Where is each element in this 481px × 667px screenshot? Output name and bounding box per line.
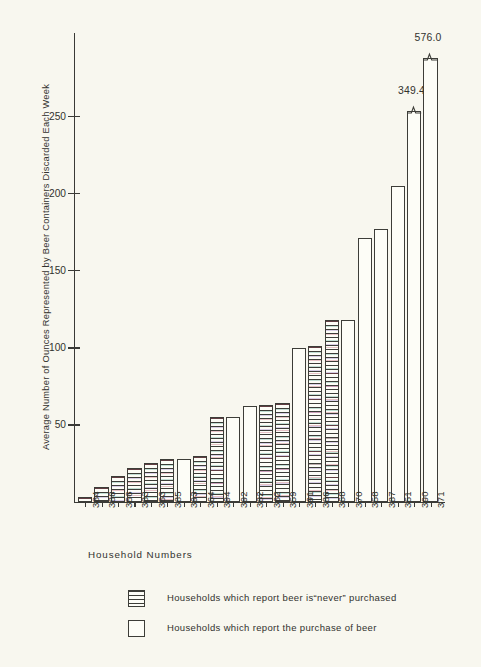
legend-swatch-hatched bbox=[128, 590, 145, 607]
bar-351[interactable] bbox=[391, 186, 405, 502]
y-axis-tick bbox=[68, 270, 80, 271]
x-axis-tick bbox=[414, 502, 415, 507]
y-axis-tick-label: 150 bbox=[26, 265, 66, 276]
y-axis-tick-label: 100 bbox=[26, 342, 66, 353]
y-axis-tick-label: 50 bbox=[26, 419, 66, 430]
y-axis-tick bbox=[68, 347, 80, 348]
x-axis-tick bbox=[266, 502, 267, 507]
x-axis-tick-label-364: 364 bbox=[205, 474, 216, 508]
x-axis-tick bbox=[250, 502, 251, 507]
x-axis-tick-label-382: 382 bbox=[254, 474, 265, 508]
bar-387[interactable] bbox=[374, 229, 388, 502]
x-axis-tick-label-351: 351 bbox=[402, 474, 413, 508]
x-axis-title: Household Numbers bbox=[88, 549, 193, 560]
x-axis-tick-label-358: 358 bbox=[369, 474, 380, 508]
x-axis-tick-label-385: 385 bbox=[172, 474, 183, 508]
x-axis-tick bbox=[315, 502, 316, 507]
x-axis-tick-label-384: 384 bbox=[90, 474, 101, 508]
x-axis-tick-label-371: 371 bbox=[435, 474, 446, 508]
x-axis-tick bbox=[299, 502, 300, 507]
y-axis-line bbox=[74, 33, 75, 503]
y-axis-tick bbox=[68, 193, 80, 194]
x-axis-tick-label-394: 394 bbox=[221, 474, 232, 508]
x-axis-tick bbox=[217, 502, 218, 507]
legend-label-purchase: Households which report the purchase of … bbox=[167, 622, 377, 633]
x-axis-tick-label-383: 383 bbox=[139, 474, 150, 508]
y-axis-tick bbox=[68, 424, 80, 425]
bar-371[interactable] bbox=[423, 58, 437, 502]
x-axis-tick bbox=[283, 502, 284, 507]
chart-legend: Households which report beer is“never” p… bbox=[128, 588, 468, 648]
x-axis-tick bbox=[365, 502, 366, 507]
x-axis-tick bbox=[348, 502, 349, 507]
x-axis-tick bbox=[233, 502, 234, 507]
bar-390[interactable] bbox=[407, 111, 421, 502]
y-axis-tick bbox=[68, 116, 80, 117]
x-axis-tick bbox=[151, 502, 152, 507]
y-axis-tick-label: 200 bbox=[26, 188, 66, 199]
legend-item-never[interactable]: Households which report beer is“never” p… bbox=[128, 588, 468, 618]
x-axis-tick bbox=[102, 502, 103, 507]
value-label-390: 349.4 bbox=[398, 85, 425, 96]
x-axis-tick-label-368: 368 bbox=[336, 474, 347, 508]
x-axis-tick bbox=[184, 502, 185, 507]
x-axis-tick bbox=[85, 502, 86, 507]
x-axis-tick bbox=[134, 502, 135, 507]
x-axis-tick-label-362: 362 bbox=[271, 474, 282, 508]
x-axis-tick-label-356: 356 bbox=[123, 474, 134, 508]
x-axis-tick bbox=[431, 502, 432, 507]
x-axis-tick-label-391: 391 bbox=[304, 474, 315, 508]
x-axis-tick-label-392: 392 bbox=[238, 474, 249, 508]
x-axis-tick-label-387: 387 bbox=[386, 474, 397, 508]
x-axis-tick bbox=[167, 502, 168, 507]
x-axis-tick bbox=[398, 502, 399, 507]
x-axis-tick-label-353: 353 bbox=[156, 474, 167, 508]
legend-item-purchase[interactable]: Households which report the purchase of … bbox=[128, 618, 468, 648]
x-axis-tick bbox=[381, 502, 382, 507]
x-axis-tick bbox=[332, 502, 333, 507]
x-axis-tick-label-386: 386 bbox=[320, 474, 331, 508]
legend-swatch-open bbox=[128, 620, 145, 637]
x-axis-tick-label-393: 393 bbox=[188, 474, 199, 508]
bar-chart-figure: Average Number of Ounces Represented by … bbox=[0, 0, 481, 667]
y-axis-tick-label: 250 bbox=[26, 111, 66, 122]
x-axis-tick-label-390: 390 bbox=[419, 474, 430, 508]
legend-label-never: Households which report beer is“never” p… bbox=[167, 592, 397, 603]
x-axis-tick-label-388: 388 bbox=[106, 474, 117, 508]
x-axis-tick bbox=[118, 502, 119, 507]
value-label-371: 576.0 bbox=[415, 32, 442, 43]
bar-358[interactable] bbox=[358, 238, 372, 502]
x-axis-tick bbox=[200, 502, 201, 507]
x-axis-tick-label-359: 359 bbox=[287, 474, 298, 508]
x-axis-tick-label-370: 370 bbox=[353, 474, 364, 508]
